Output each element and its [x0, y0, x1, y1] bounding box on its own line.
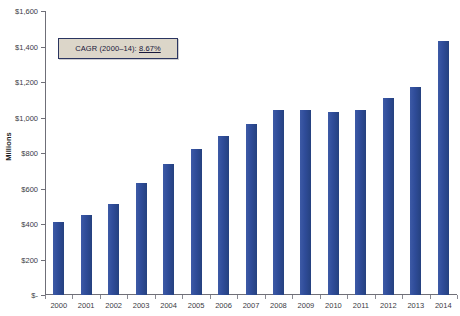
- y-tick: [41, 47, 45, 48]
- x-tick-label: 2003: [133, 301, 150, 310]
- x-tick: [72, 295, 73, 299]
- bar: [328, 112, 339, 295]
- x-tick-label: 2000: [50, 301, 67, 310]
- y-tick-label: $800: [21, 149, 38, 158]
- x-tick: [182, 295, 183, 299]
- bar: [273, 110, 284, 295]
- x-tick: [320, 295, 321, 299]
- y-tick-label: $600: [21, 184, 38, 193]
- chart-figure: Millions $-$200$400$600$800$1,000$1,200$…: [0, 0, 460, 316]
- x-tick: [45, 295, 46, 299]
- bar: [383, 98, 394, 295]
- x-tick-label: 2001: [78, 301, 95, 310]
- bar: [53, 222, 64, 295]
- cagr-annotation-text: CAGR (2000–14): 8.67%: [75, 44, 161, 53]
- x-tick-label: 2002: [105, 301, 122, 310]
- bar: [246, 124, 257, 295]
- x-tick: [155, 295, 156, 299]
- bar: [300, 110, 311, 295]
- y-tick-label: $1,200: [15, 78, 38, 87]
- x-tick-label: 2005: [188, 301, 205, 310]
- x-tick-label: 2010: [325, 301, 342, 310]
- x-tick: [402, 295, 403, 299]
- bar: [355, 110, 366, 295]
- bar: [410, 87, 421, 295]
- x-tick: [100, 295, 101, 299]
- y-axis-line: [45, 11, 46, 295]
- y-tick-label: $1,000: [15, 113, 38, 122]
- bar: [218, 136, 229, 295]
- y-tick: [41, 260, 45, 261]
- x-tick: [292, 295, 293, 299]
- cagr-value: 8.67%: [139, 44, 161, 53]
- y-tick-label: $200: [21, 255, 38, 264]
- bar: [81, 215, 92, 295]
- x-tick-label: 2014: [435, 301, 452, 310]
- y-tick-label: $1,400: [15, 42, 38, 51]
- x-tick-label: 2009: [298, 301, 315, 310]
- chart-title: [0, 0, 460, 1]
- x-tick-label: 2012: [380, 301, 397, 310]
- y-tick: [41, 224, 45, 225]
- bar: [191, 149, 202, 295]
- y-tick-label: $400: [21, 220, 38, 229]
- x-tick: [265, 295, 266, 299]
- y-tick-label: $-: [31, 291, 38, 300]
- x-tick: [210, 295, 211, 299]
- x-tick-label: 2006: [215, 301, 232, 310]
- cagr-label: CAGR (2000–14):: [75, 44, 137, 53]
- x-tick: [127, 295, 128, 299]
- bar: [136, 183, 147, 295]
- x-tick-label: 2008: [270, 301, 287, 310]
- y-tick: [41, 82, 45, 83]
- x-tick-label: 2007: [243, 301, 260, 310]
- bar: [108, 204, 119, 295]
- y-tick: [41, 189, 45, 190]
- x-tick: [237, 295, 238, 299]
- x-tick-label: 2013: [407, 301, 424, 310]
- y-tick: [41, 118, 45, 119]
- y-axis-title: Millions: [4, 119, 13, 175]
- y-tick: [41, 11, 45, 12]
- y-tick-label: $1,600: [15, 7, 38, 16]
- cagr-annotation-box: CAGR (2000–14): 8.67%: [58, 38, 178, 59]
- x-tick: [375, 295, 376, 299]
- x-tick-label: 2011: [353, 301, 369, 310]
- bar: [438, 41, 449, 295]
- x-tick: [457, 295, 458, 299]
- x-tick: [347, 295, 348, 299]
- x-tick-label: 2004: [160, 301, 177, 310]
- y-tick: [41, 153, 45, 154]
- bar: [163, 164, 174, 295]
- x-tick: [430, 295, 431, 299]
